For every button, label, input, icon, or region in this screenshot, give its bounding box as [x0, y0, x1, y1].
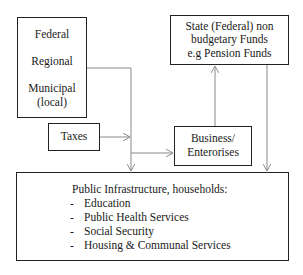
business-line-2: Enterorises: [175, 146, 251, 159]
business-line-1: Business/: [175, 132, 251, 145]
list-item: -Social Security: [70, 224, 231, 238]
public-infrastructure-list: Public Infrastructure, households: -Educ…: [72, 182, 231, 252]
local-label: (local): [18, 96, 86, 109]
municipal-label: Municipal: [18, 82, 86, 95]
state-funds-line-1: State (Federal) non: [171, 20, 288, 33]
business-box: Business/ Enterorises: [174, 126, 252, 166]
public-infrastructure-title: Public Infrastructure, households:: [72, 182, 231, 196]
taxes-box: Taxes: [48, 123, 100, 151]
state-funds-box: State (Federal) non budgetary Funds e.g …: [170, 15, 289, 65]
list-item: -Housing & Communal Services: [70, 238, 231, 252]
state-funds-line-3: e.g Pension Funds: [171, 47, 288, 60]
taxes-label: Taxes: [49, 130, 99, 143]
regional-label: Regional: [18, 55, 86, 68]
list-item: -Education: [70, 196, 231, 210]
arrow-government-to-public: [87, 68, 131, 171]
list-item: -Public Health Services: [70, 210, 231, 224]
government-levels-box: Federal Regional Municipal (local): [17, 17, 87, 118]
federal-label: Federal: [18, 28, 86, 41]
state-funds-line-2: budgetary Funds: [171, 33, 288, 46]
